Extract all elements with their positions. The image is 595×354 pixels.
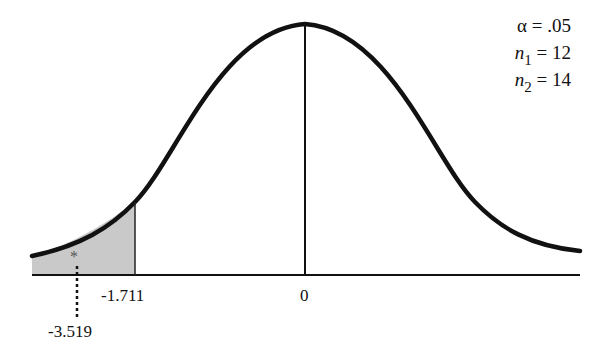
alpha-line: α = .05 xyxy=(515,12,571,39)
test-parameters: α = .05 n1 = 12 n2 = 14 xyxy=(515,12,571,93)
test-statistic-label: -3.519 xyxy=(48,322,92,342)
critical-value-label: -1.711 xyxy=(101,286,144,306)
t-distribution-diagram xyxy=(0,0,595,354)
n2-line: n2 = 14 xyxy=(515,66,571,93)
zero-label: 0 xyxy=(300,286,309,306)
alpha-symbol: α xyxy=(517,15,527,36)
test-statistic-marker: * xyxy=(70,248,78,266)
n1-line: n1 = 12 xyxy=(515,39,571,66)
